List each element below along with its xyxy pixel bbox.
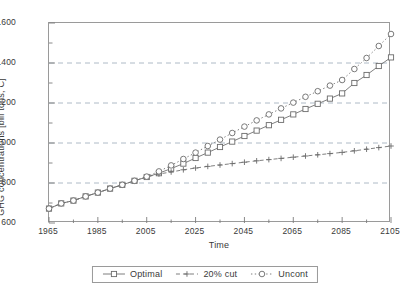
x-axis-title-text: Time: [209, 240, 229, 250]
data-series-layer: [49, 23, 389, 221]
x-tick-label: 1965: [38, 226, 58, 236]
x-axis-title: Time: [48, 240, 390, 250]
legend-label: Uncont: [278, 269, 308, 279]
x-tick-label: 2085: [331, 226, 351, 236]
y-tick-label: 1000: [0, 137, 16, 147]
y-tick-label: 1600: [0, 17, 16, 27]
y-axis-title: GHG concentrations [bill tons, C]: [0, 0, 8, 294]
legend-label: 20% cut: [203, 269, 237, 279]
x-tick-label: 2065: [282, 226, 302, 236]
legend-item-optimal[interactable]: Optimal: [102, 269, 162, 279]
y-tick-label: 600: [1, 217, 16, 227]
legend-symbol-open-circle: [250, 269, 274, 279]
legend-item-uncont[interactable]: Uncont: [250, 269, 308, 279]
legend-item-20-cut[interactable]: 20% cut: [175, 269, 237, 279]
chart-legend: Optimal20% cutUncont: [92, 266, 318, 283]
x-tick-label: 2025: [185, 226, 205, 236]
x-tick-label: 2045: [234, 226, 254, 236]
y-tick-label: 800: [1, 177, 16, 187]
legend-label: Optimal: [130, 269, 162, 279]
x-tick-label: 2005: [136, 226, 156, 236]
plot-area: [48, 22, 390, 222]
legend-symbol-open-square: [102, 269, 126, 279]
chart-figure: GHG concentrations [bill tons, C] 600800…: [0, 0, 410, 294]
y-tick-label: 1400: [0, 57, 16, 67]
legend-symbol-plus: [175, 269, 199, 279]
y-tick-label: 1200: [0, 97, 16, 107]
x-tick-label: 2105: [380, 226, 400, 236]
x-tick-label: 1985: [87, 226, 107, 236]
